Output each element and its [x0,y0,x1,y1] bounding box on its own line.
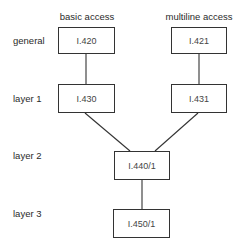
node-label: I.431 [189,94,209,104]
edge-431-440 [155,113,198,151]
row-label-layer-2: layer 2 [13,150,42,161]
node-label: I.421 [189,36,209,46]
node-label: I.450/1 [128,219,156,229]
node-i450-1: I.450/1 [113,209,170,238]
node-i440-1: I.440/1 [114,151,170,180]
column-header-multiline-access: multiline access [165,11,232,22]
row-label-layer-3: layer 3 [13,208,42,219]
column-header-basic-access: basic access [60,11,114,22]
edge-430-440 [85,113,130,151]
row-label-layer-1: layer 1 [13,93,42,104]
node-i431: I.431 [171,84,227,113]
row-label-general: general [13,35,45,46]
node-i430: I.430 [58,84,115,113]
node-label: I.440/1 [128,161,156,171]
node-i421: I.421 [171,27,227,54]
node-label: I.430 [76,94,96,104]
node-label: I.420 [76,36,96,46]
node-i420: I.420 [58,27,115,54]
